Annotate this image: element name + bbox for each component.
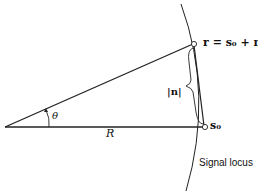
received-vector-line bbox=[5, 44, 193, 127]
radius-label: R bbox=[106, 127, 114, 140]
signal-locus-arc bbox=[181, 4, 199, 191]
angle-arc bbox=[46, 110, 49, 127]
s0-point bbox=[202, 124, 207, 129]
angle-label: θ bbox=[52, 110, 58, 121]
s0-point-label: s₀ bbox=[210, 119, 221, 132]
signal-locus-label: Signal locus bbox=[199, 157, 253, 168]
brace-icon bbox=[186, 48, 203, 124]
r-point bbox=[191, 41, 196, 46]
r-point-label: r = s₀ + n bbox=[203, 36, 258, 49]
noise-magnitude-label: |n| bbox=[167, 86, 182, 97]
signal-locus-diagram: r = s₀ + n s₀ |n| θ R Signal locus bbox=[0, 0, 258, 192]
